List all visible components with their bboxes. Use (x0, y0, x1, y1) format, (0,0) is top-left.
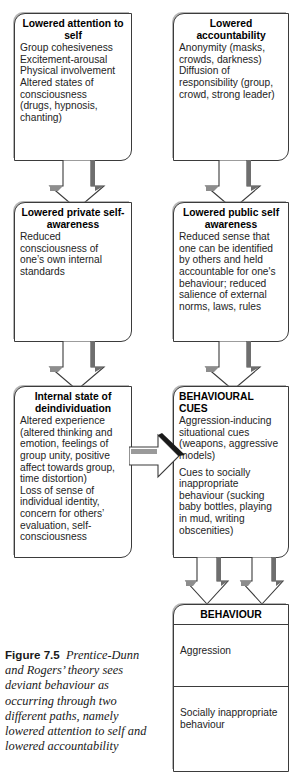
box-behavioural-cues: BEHAVIOURAL CUES Aggression-inducing sit… (173, 386, 289, 558)
arrow-down-cues-to-behaviour-right (236, 557, 288, 607)
box-body: Reduced sense that one can be identified… (179, 231, 283, 312)
arrow-down-cues-to-behaviour-left (181, 557, 233, 607)
figure-caption: Figure 7.5 Prentice-Dunn and Rogers’ the… (5, 647, 157, 754)
box-title: Lowered private self-awareness (20, 207, 126, 230)
figure-label: Figure 7.5 (5, 648, 60, 661)
figure-caption-text: Prentice-Dunn and Rogers’ theory sees de… (5, 648, 146, 753)
box-lowered-accountability: Lowered accountability Anonymity (masks,… (173, 13, 289, 161)
box-body: Reduced consciousness of one’s own inter… (20, 231, 126, 277)
box-lowered-public-self-awareness: Lowered public self awareness Reduced se… (173, 202, 289, 342)
behaviour-title: BEHAVIOUR (174, 605, 288, 625)
box-body: Group cohesiveness Excitement-arousal Ph… (20, 42, 126, 123)
arrow-down-public-to-behavioural-cues (198, 341, 268, 391)
box-title: Internal state of deindividuation (20, 391, 126, 414)
behaviour-row-aggression: Aggression (174, 625, 288, 687)
box-title: Lowered accountability (179, 18, 283, 41)
box-body-aggression-cues: Aggression-inducing situational cues (we… (179, 415, 283, 461)
box-internal-state-of-deindividuation: Internal state of deindividuation Altere… (14, 386, 132, 558)
box-behaviour: BEHAVIOUR Aggression Socially inappropri… (173, 604, 289, 772)
box-body: Anonymity (masks, crowds, darkness) Diff… (179, 42, 283, 100)
arrow-down-private-to-internal-state (42, 341, 112, 391)
box-lowered-attention-to-self: Lowered attention to self Group cohesive… (14, 13, 132, 161)
behaviour-row-socially-inappropriate: Socially inappropriate behaviour (174, 687, 288, 771)
box-title: BEHAVIOURAL CUES (179, 391, 283, 414)
box-lowered-private-self-awareness: Lowered private self-awareness Reduced c… (14, 202, 132, 342)
box-body: Altered experience (altered thinking and… (20, 415, 126, 543)
box-title: Lowered public self awareness (179, 207, 283, 230)
box-body-social-cues: Cues to socially inappropriate behaviour… (179, 467, 283, 537)
box-title: Lowered attention to self (20, 18, 126, 41)
